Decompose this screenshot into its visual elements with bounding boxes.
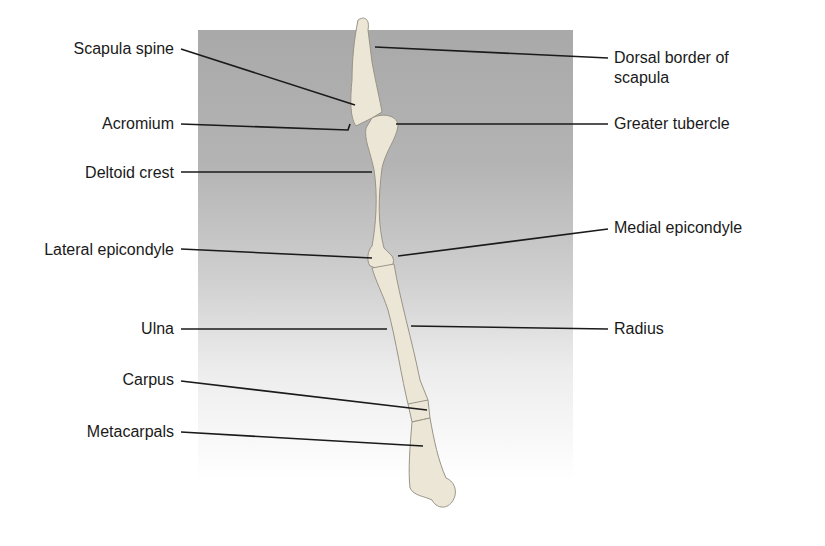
- label-ulna: Ulna: [0, 319, 174, 339]
- label-lateral-epicondyle: Lateral epicondyle: [34, 240, 174, 260]
- label-acromium: Acromium: [0, 114, 174, 134]
- label-radius: Radius: [614, 319, 814, 339]
- label-greater-tubercle: Greater tubercle: [614, 114, 814, 134]
- label-carpus: Carpus: [0, 370, 174, 390]
- label-metacarpals: Metacarpals: [0, 422, 174, 442]
- leader-lines: [181, 47, 608, 446]
- label-medial-epicondyle: Medial epicondyle: [614, 218, 814, 238]
- label-dorsal-border: Dorsal border of scapula: [614, 48, 774, 88]
- label-scapula-spine: Scapula spine: [0, 39, 174, 59]
- label-deltoid-crest: Deltoid crest: [14, 163, 174, 183]
